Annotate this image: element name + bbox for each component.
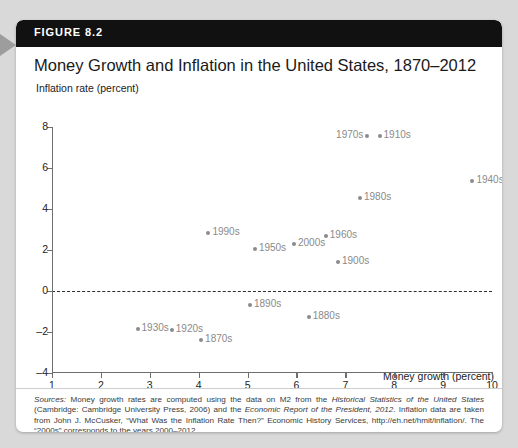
data-point-label-1980s: 1980s	[364, 191, 391, 202]
source-note: Sources: Money growth rates are computed…	[34, 395, 484, 432]
x-tick-label-8: 8	[391, 379, 397, 391]
data-point-1870s	[199, 338, 203, 342]
x-tick-label-6: 6	[294, 379, 300, 391]
figure-card: FIGURE 8.2 Money Growth and Inflation in…	[16, 20, 502, 432]
data-point-label-2000s: 2000s	[298, 237, 325, 248]
x-tick-label-2: 2	[98, 379, 104, 391]
data-point-label-1950s: 1950s	[259, 242, 286, 253]
x-tick-mark-4	[199, 372, 200, 378]
x-tick-label-9: 9	[440, 379, 446, 391]
x-tick-label-4: 4	[196, 379, 202, 391]
data-point-1990s	[206, 231, 210, 235]
data-point-label-1940s: 1940s	[476, 174, 502, 185]
data-point-1920s	[170, 328, 174, 332]
figure-title: Money Growth and Inflation in the United…	[34, 56, 476, 75]
y-axis-label: Inflation rate (percent)	[36, 82, 139, 94]
data-point-1930s	[136, 327, 140, 331]
data-point-label-1970s: 1970s	[336, 129, 363, 140]
source-note-italic-2: Economic Report of the President, 2012	[245, 405, 393, 414]
data-point-label-1870s: 1870s	[205, 333, 232, 344]
data-point-2000s	[292, 242, 296, 246]
data-point-1970s	[365, 134, 369, 138]
figure-number-label: FIGURE 8.2	[34, 26, 103, 38]
x-tick-mark-6	[296, 372, 297, 378]
data-point-1900s	[336, 260, 340, 264]
data-point-label-1900s: 1900s	[342, 255, 369, 266]
data-point-1890s	[248, 303, 252, 307]
source-note-body-2: (Cambridge: Cambridge University Press, …	[34, 405, 245, 414]
x-axis-line	[52, 372, 492, 373]
data-point-label-1910s: 1910s	[384, 129, 411, 140]
x-tick-label-3: 3	[147, 379, 153, 391]
data-point-1880s	[307, 315, 311, 319]
zero-inflation-dashed-line	[52, 291, 492, 292]
data-point-1950s	[253, 247, 257, 251]
data-point-label-1990s: 1990s	[212, 226, 239, 237]
x-tick-label-7: 7	[342, 379, 348, 391]
y-tick-label: 0	[42, 284, 48, 296]
data-point-1910s	[378, 134, 382, 138]
figure-page: FIGURE 8.2 Money Growth and Inflation in…	[0, 0, 518, 448]
x-tick-label-1: 1	[49, 379, 55, 391]
x-tick-mark-5	[248, 372, 249, 378]
x-tick-mark-8	[394, 372, 395, 378]
x-tick-mark-9	[443, 372, 444, 378]
y-tick-label: –2	[36, 325, 48, 337]
x-tick-label-10: 10	[486, 379, 498, 391]
figure-header-bar: FIGURE 8.2	[16, 20, 502, 47]
source-note-italic-1: Historical Statistics of the United Stat…	[332, 395, 484, 404]
x-tick-mark-2	[101, 372, 102, 378]
data-point-1940s	[470, 179, 474, 183]
data-point-label-1960s: 1960s	[330, 229, 357, 240]
source-note-prefix: Sources:	[34, 395, 66, 404]
source-note-body-1: Money growth rates are computed using th…	[66, 395, 332, 404]
x-tick-mark-3	[150, 372, 151, 378]
data-point-label-1880s: 1880s	[313, 310, 340, 321]
x-tick-mark-7	[345, 372, 346, 378]
x-tick-mark-10	[492, 372, 493, 378]
footer-divider	[16, 388, 502, 389]
x-tick-label-5: 5	[245, 379, 251, 391]
y-tick-label: 6	[42, 161, 48, 173]
data-point-label-1920s: 1920s	[176, 323, 203, 334]
data-point-label-1930s: 1930s	[142, 322, 169, 333]
y-tick-label: 8	[42, 120, 48, 132]
data-point-label-1890s: 1890s	[254, 298, 281, 309]
data-point-1980s	[358, 196, 362, 200]
y-tick-label: 2	[42, 243, 48, 255]
left-edge-arrow-marker	[0, 34, 16, 56]
plot-area: 86420–2–4 12345678910 1970s1910s1940s198…	[52, 127, 492, 373]
x-tick-mark-1	[52, 372, 53, 378]
y-tick-label: 4	[42, 202, 48, 214]
scatter-chart: Inflation rate (percent) Money growth (p…	[16, 82, 502, 382]
y-tick-label: –4	[36, 366, 48, 378]
